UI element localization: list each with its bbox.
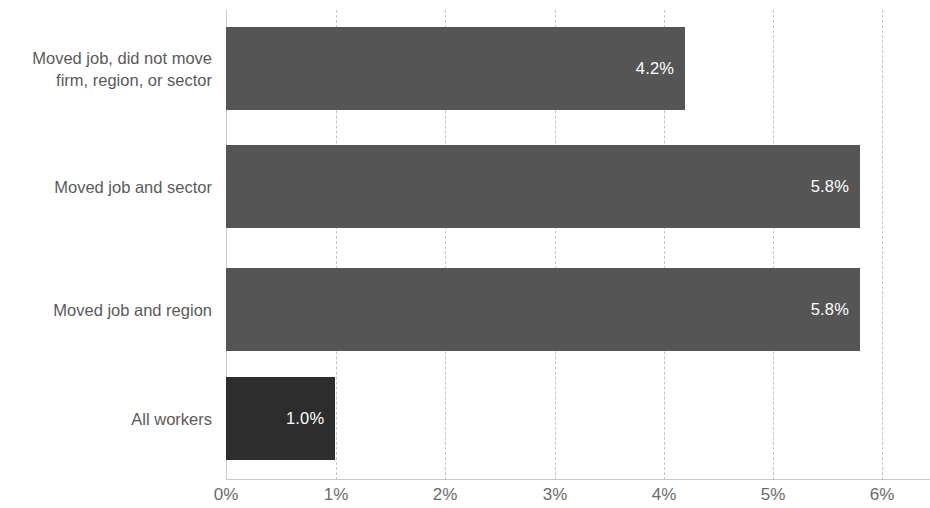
xtick-label-1: 1%: [324, 486, 349, 504]
bar-value-label: 5.8%: [811, 301, 849, 318]
xtick-label-6: 6%: [870, 486, 895, 504]
gridline-5pct: [773, 10, 774, 480]
xtick-label-3: 3%: [543, 486, 568, 504]
xtick-label-4: 4%: [652, 486, 677, 504]
gridline-6pct: [882, 10, 883, 480]
category-label-moved-job-did-not-move-firm-region-or-sector: Moved job, did not move firm, region, or…: [14, 47, 226, 91]
xtick-label-5: 5%: [761, 486, 786, 504]
bar-value-label: 4.2%: [636, 60, 674, 77]
category-label-moved-job-and-region: Moved job and region: [14, 299, 226, 321]
bar-value-label: 1.0%: [286, 410, 324, 427]
bar-all-workers: 1.0%: [226, 377, 335, 460]
category-label-all-workers: All workers: [14, 408, 226, 430]
x-axis-line: [226, 479, 930, 480]
category-label-moved-job-and-sector: Moved job and sector: [14, 176, 226, 198]
bar-value-label: 5.8%: [811, 178, 849, 195]
y-axis-category-labels: Moved job, did not move firm, region, or…: [0, 0, 226, 508]
bar-moved-job-and-sector: 5.8%: [226, 145, 860, 228]
bar-chart: 4.2% 5.8% 5.8% 1.0% Moved job, did not m…: [0, 0, 930, 508]
xtick-label-0: 0%: [214, 486, 239, 504]
xtick-label-2: 2%: [433, 486, 458, 504]
bar-moved-job-did-not-move-firm-region-or-sector: 4.2%: [226, 27, 685, 110]
bar-moved-job-and-region: 5.8%: [226, 268, 860, 351]
